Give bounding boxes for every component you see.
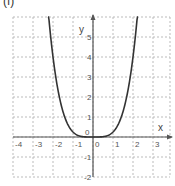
x-tick-label: -4: [15, 140, 23, 149]
x-tick-label: 3: [155, 140, 160, 149]
y-tick-label: -1: [84, 153, 92, 162]
grid: [13, 17, 170, 177]
y-tick-label: 4: [87, 53, 92, 62]
figure-label: (f): [3, 0, 14, 8]
y-axis-label: y: [79, 24, 84, 35]
x-tick-label: 0: [95, 140, 100, 149]
y-tick-label: 0: [85, 128, 90, 137]
axes: [13, 14, 173, 177]
y-tick-label: 2: [87, 93, 92, 102]
function-plot: (f) -4-3-2-10123-2-1012345 x y: [0, 0, 175, 186]
y-tick-label: -2: [84, 173, 92, 182]
tick-labels: -4-3-2-10123-2-1012345: [15, 33, 160, 182]
x-tick-label: 2: [135, 140, 140, 149]
y-tick-label: 3: [87, 73, 92, 82]
x-tick-label: -3: [35, 140, 43, 149]
x-tick-label: -1: [75, 140, 83, 149]
y-tick-label: 1: [87, 113, 92, 122]
x-axis-label: x: [158, 122, 163, 133]
x-tick-label: -2: [55, 140, 63, 149]
x-tick-label: 1: [115, 140, 120, 149]
y-tick-label: 5: [87, 33, 92, 42]
